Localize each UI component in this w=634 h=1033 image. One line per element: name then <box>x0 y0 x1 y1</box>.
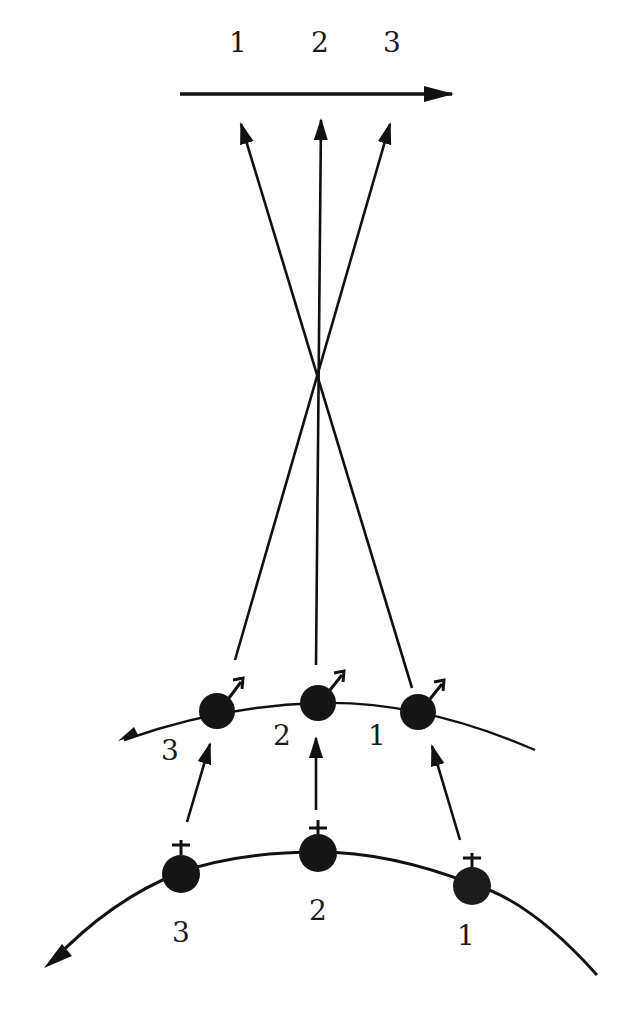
middle-node-3: 3 <box>161 678 243 767</box>
middle-node-label-2: 2 <box>273 719 291 752</box>
ray-from-3 <box>235 124 390 660</box>
ray-from-2 <box>316 120 321 665</box>
short-arrow-1 <box>432 746 460 840</box>
top-axis-label-3: 3 <box>383 26 401 59</box>
short-arrows <box>187 738 460 840</box>
top-axis: 1 2 3 <box>180 26 452 94</box>
male-arrow-icon <box>430 684 442 699</box>
bottom-node-1: 1 <box>453 853 491 952</box>
bottom-node-label-1: 1 <box>457 919 475 952</box>
bottom-node-label-2: 2 <box>309 894 327 927</box>
bottom-arc: 3 2 1 <box>44 820 597 975</box>
middle-node-2: 2 <box>273 671 344 752</box>
crossing-rays <box>235 120 412 688</box>
bottom-node-2: 2 <box>299 820 337 927</box>
short-arrow-3 <box>187 744 210 822</box>
male-arrow-icon <box>229 682 241 698</box>
middle-node-1: 1 <box>368 680 444 752</box>
top-axis-label-1: 1 <box>229 26 247 59</box>
diagram-canvas: 1 2 3 3 2 1 <box>0 0 634 1033</box>
middle-arc: 3 2 1 <box>118 671 535 767</box>
bottom-node-label-3: 3 <box>172 916 190 949</box>
top-axis-label-2: 2 <box>311 26 329 59</box>
middle-node-label-3: 3 <box>161 734 179 767</box>
bottom-node-3: 3 <box>162 840 200 949</box>
middle-node-label-1: 1 <box>368 719 386 752</box>
male-arrow-icon <box>330 675 342 690</box>
ray-from-1 <box>241 124 412 688</box>
